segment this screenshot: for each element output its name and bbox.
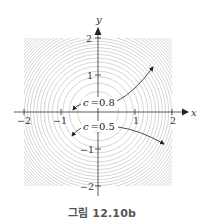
y-axis-arrow-icon: [95, 27, 102, 35]
svg-text:2: 2: [86, 33, 92, 44]
svg-text:−1: −1: [53, 115, 67, 126]
y-axis-label: y: [95, 14, 102, 25]
contour-plot: x y −2 −1 1 2 2 1 −1 −2 c=0.8 c=0.5: [0, 0, 204, 200]
svg-text:1: 1: [133, 115, 139, 126]
svg-text:c=0.8: c=0.8: [83, 97, 115, 108]
svg-text:−2: −2: [80, 181, 94, 192]
figure-caption: 그림 12.10b: [0, 204, 204, 220]
svg-text:1: 1: [87, 70, 93, 81]
svg-text:−2: −2: [17, 115, 31, 126]
svg-text:2: 2: [170, 115, 176, 126]
x-axis-arrow-icon: [182, 109, 189, 116]
x-axis-label: x: [191, 107, 197, 118]
svg-text:−1: −1: [80, 144, 94, 155]
svg-text:c=0.5: c=0.5: [83, 121, 115, 132]
